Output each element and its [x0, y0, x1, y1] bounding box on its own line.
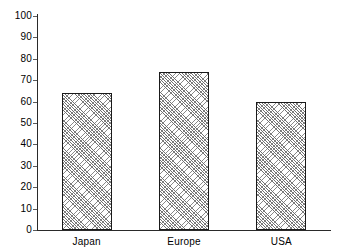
y-axis-tick-label: 40 [0, 139, 32, 149]
x-axis-label-japan: Japan [73, 236, 101, 247]
plot-area [38, 16, 330, 230]
y-axis-tick-label: 100 [0, 11, 32, 21]
y-axis-tick-label: 70 [0, 75, 32, 85]
y-axis-tick-label: 60 [0, 97, 32, 107]
y-axis-tick-mark [33, 123, 37, 124]
y-axis-tick-label: 50 [0, 118, 32, 128]
y-axis-tick-mark [33, 166, 37, 167]
bar-japan [62, 93, 112, 230]
y-axis-tick-mark [33, 187, 37, 188]
y-axis-tick-mark [33, 16, 37, 17]
y-axis-tick-label: 80 [0, 54, 32, 64]
bar-chart: 0102030405060708090100 JapanEuropeUSA [0, 0, 339, 252]
x-axis-line [37, 230, 331, 231]
y-axis-tick-label: 90 [0, 32, 32, 42]
y-axis-tick-label: 10 [0, 204, 32, 214]
y-axis-tick-mark [33, 37, 37, 38]
y-axis-tick-mark [33, 80, 37, 81]
x-axis-label-usa: USA [271, 236, 292, 247]
y-axis-tick-mark [33, 144, 37, 145]
y-axis-tick-mark [33, 209, 37, 210]
y-axis-tick-mark [33, 230, 37, 231]
y-axis-tick-mark [33, 59, 37, 60]
y-axis-tick-mark [33, 102, 37, 103]
y-axis-tick-label: 0 [0, 225, 32, 235]
x-axis-label-europe: Europe [167, 236, 200, 247]
y-axis-tick-label: 20 [0, 182, 32, 192]
y-axis-tick-label: 30 [0, 161, 32, 171]
bar-europe [159, 72, 209, 230]
bar-usa [256, 102, 306, 230]
